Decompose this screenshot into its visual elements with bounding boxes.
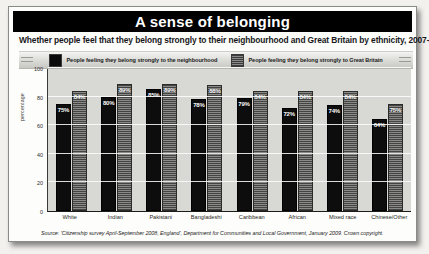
plot-wrapper: percentage 020406080100 75%84%80%89%85%8… — [19, 69, 413, 227]
gridline — [48, 67, 411, 68]
bar-group: 75%84% — [56, 69, 87, 211]
chart-subtitle: Whether people feel that they belong str… — [19, 35, 413, 45]
gridline — [48, 153, 411, 154]
bar-group: 64%75% — [372, 69, 403, 211]
bar-value-label: 88% — [209, 88, 220, 94]
bar: 74% — [327, 105, 342, 211]
bar: 85% — [146, 89, 161, 211]
bar: 75% — [388, 104, 403, 211]
x-axis-ticks: WhiteIndianPakistaniBangladeshiCaribbean… — [47, 214, 411, 226]
legend-item-neighbourhood: People feeling they belong strongly to t… — [49, 54, 217, 67]
gridline — [48, 181, 411, 182]
bar: 78% — [191, 99, 206, 211]
y-axis-tick: 40 — [37, 152, 43, 158]
bar: 84% — [72, 91, 87, 211]
x-axis-tick: Bangladeshi — [189, 214, 223, 220]
page-title: A sense of belonging — [135, 14, 290, 29]
bar-value-label: 79% — [238, 101, 249, 107]
x-axis-tick: Indian — [98, 214, 132, 220]
bar: 89% — [162, 84, 177, 211]
legend-item-great-britain: People feeling they belong strongly to G… — [231, 54, 382, 67]
bar: 84% — [343, 91, 358, 211]
bar-value-label: 89% — [164, 87, 175, 93]
bar-groups: 75%84%80%89%85%89%78%88%79%84%72%84%74%8… — [48, 69, 411, 211]
bar-value-label: 80% — [103, 100, 114, 106]
y-axis-tick: 80 — [37, 95, 43, 101]
x-axis-tick: African — [280, 214, 314, 220]
bar: 88% — [207, 85, 222, 211]
x-axis-tick: White — [53, 214, 87, 220]
bar-value-label: 72% — [283, 111, 294, 117]
chart-card: A sense of belonging Whether people feel… — [8, 6, 417, 242]
screenshot-root: A sense of belonging Whether people feel… — [0, 0, 429, 254]
gridline — [48, 124, 411, 125]
legend-label-neighbourhood: People feeling they belong strongly to t… — [66, 57, 217, 63]
bar-value-label: 74% — [329, 108, 340, 114]
bar: 84% — [298, 91, 313, 211]
bar-value-label: 75% — [58, 107, 69, 113]
x-axis-tick: Chinese/Other — [371, 214, 405, 220]
y-axis-tick: 60 — [37, 123, 43, 129]
bar-group: 78%88% — [191, 69, 222, 211]
bar-group: 85%89% — [146, 69, 177, 211]
chart-card-inner: A sense of belonging Whether people feel… — [13, 11, 412, 237]
bar-value-label: 75% — [390, 107, 401, 113]
bar-value-label: 78% — [193, 102, 204, 108]
legend-items: People feeling they belong strongly to t… — [35, 54, 397, 67]
bar: 84% — [253, 91, 268, 211]
legend-swatch-neighbourhood-icon — [49, 54, 62, 67]
bar-group: 72%84% — [282, 69, 313, 211]
y-axis-label: percentage — [19, 112, 25, 121]
bar-value-label: 89% — [119, 87, 130, 93]
plot-area: 75%84%80%89%85%89%78%88%79%84%72%84%74%8… — [47, 69, 411, 212]
ribbon-right-icon — [397, 52, 413, 68]
x-axis-tick: Mixed race — [326, 214, 360, 220]
chart-title-bar: A sense of belonging — [13, 11, 412, 32]
ribbon-left-icon — [19, 52, 35, 68]
bar: 79% — [237, 98, 252, 211]
y-axis-tick: 100 — [34, 66, 43, 72]
bar: 64% — [372, 119, 387, 211]
x-axis-tick: Caribbean — [235, 214, 269, 220]
bar: 89% — [117, 84, 132, 211]
bar: 75% — [56, 104, 71, 211]
y-axis-tick: 0 — [40, 209, 43, 215]
y-axis-ticks: 020406080100 — [28, 69, 46, 212]
bar-group: 80%89% — [101, 69, 132, 211]
gridline — [48, 96, 411, 97]
bar-group: 74%84% — [327, 69, 358, 211]
legend-label-great-britain: People feeling they belong strongly to G… — [248, 57, 382, 63]
source-note: Source: 'Citizenship survey April-Septem… — [41, 230, 413, 236]
y-axis-tick: 20 — [37, 180, 43, 186]
legend-swatch-great-britain-icon — [231, 54, 244, 67]
bar-group: 79%84% — [237, 69, 268, 211]
x-axis-tick: Pakistani — [144, 214, 178, 220]
